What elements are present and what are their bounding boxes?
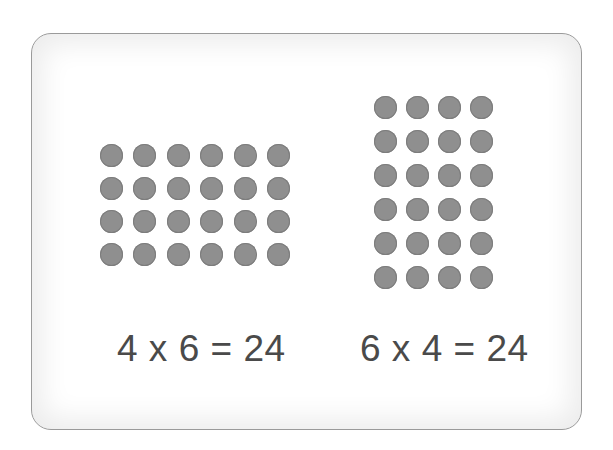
dot-circle-icon <box>267 210 290 233</box>
dot-circle-icon <box>470 198 493 221</box>
equation-right: 6 x 4 = 24 <box>360 327 529 371</box>
dot-circle-icon <box>406 130 429 153</box>
dot-circle-icon <box>406 96 429 119</box>
dot-circle-icon <box>200 144 223 167</box>
dot-circle-icon <box>438 164 461 187</box>
dot-circle-icon <box>234 177 257 200</box>
dot-circle-icon <box>470 266 493 289</box>
dot-circle-icon <box>406 232 429 255</box>
dot-circle-icon <box>267 177 290 200</box>
dot-circle-icon <box>133 210 156 233</box>
dot-circle-icon <box>374 232 397 255</box>
dot-circle-icon <box>438 232 461 255</box>
dot-circle-icon <box>470 164 493 187</box>
dot-circle-icon <box>438 130 461 153</box>
dot-circle-icon <box>100 144 123 167</box>
dot-circle-icon <box>374 96 397 119</box>
dot-circle-icon <box>374 164 397 187</box>
dot-circle-icon <box>167 243 190 266</box>
dot-circle-icon <box>374 130 397 153</box>
dot-circle-icon <box>133 243 156 266</box>
dot-circle-icon <box>267 144 290 167</box>
dot-circle-icon <box>438 266 461 289</box>
dot-circle-icon <box>406 198 429 221</box>
dot-circle-icon <box>374 198 397 221</box>
dot-circle-icon <box>100 243 123 266</box>
dot-circle-icon <box>234 210 257 233</box>
dot-circle-icon <box>374 266 397 289</box>
dot-circle-icon <box>406 164 429 187</box>
dot-circle-icon <box>167 144 190 167</box>
dot-circle-icon <box>200 210 223 233</box>
dot-circle-icon <box>200 177 223 200</box>
equation-left: 4 x 6 = 24 <box>117 327 286 371</box>
dot-circle-icon <box>438 96 461 119</box>
dot-circle-icon <box>167 177 190 200</box>
dot-circle-icon <box>234 243 257 266</box>
dot-circle-icon <box>200 243 223 266</box>
dot-circle-icon <box>100 177 123 200</box>
dot-array-6x4 <box>374 96 493 289</box>
dot-circle-icon <box>406 266 429 289</box>
dot-circle-icon <box>234 144 257 167</box>
dot-circle-icon <box>470 130 493 153</box>
dot-circle-icon <box>133 144 156 167</box>
dot-circle-icon <box>438 198 461 221</box>
dot-circle-icon <box>133 177 156 200</box>
dot-circle-icon <box>470 232 493 255</box>
dot-circle-icon <box>167 210 190 233</box>
dot-circle-icon <box>267 243 290 266</box>
dot-array-4x6 <box>100 144 290 266</box>
dot-circle-icon <box>470 96 493 119</box>
dot-circle-icon <box>100 210 123 233</box>
